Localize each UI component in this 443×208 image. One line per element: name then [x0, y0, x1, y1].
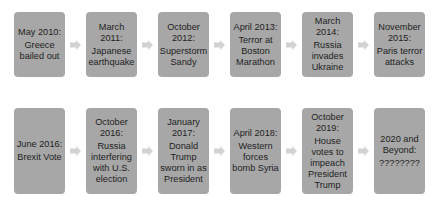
arrow-connector — [353, 40, 374, 50]
timeline-box-october-2012: October 2012: Superstorm Sandy — [158, 12, 209, 77]
box-event: Greece bailed out — [15, 40, 64, 62]
box-event: Brexit Vote — [17, 152, 61, 163]
arrow-connector — [65, 40, 86, 50]
box-date: March 2011: — [87, 22, 136, 44]
box-date: 2020 and Beyond: — [375, 134, 424, 156]
box-date: April 2018: — [234, 128, 278, 139]
box-event: Russia interfering with U.S. election — [87, 141, 136, 185]
box-date: January 2017: — [159, 117, 208, 139]
box-event: ???????? — [379, 158, 420, 169]
right-arrow-icon — [214, 40, 225, 50]
box-event: Paris terror attacks — [375, 46, 424, 68]
box-event: Russia invades Ukraine — [303, 40, 352, 73]
timeline-box-march-2011: March 2011: Japanese earthquake — [86, 12, 137, 77]
box-date: October 2012: — [159, 22, 208, 44]
right-arrow-icon — [142, 40, 153, 50]
box-event: Superstorm Sandy — [159, 46, 208, 68]
arrow-connector — [353, 146, 374, 156]
timeline-row-2: June 2016: Brexit Vote October 2016: Rus… — [14, 108, 425, 194]
box-date: November 2015: — [375, 22, 424, 44]
box-date: May 2010: — [18, 27, 61, 38]
right-arrow-icon — [358, 146, 369, 156]
arrow-connector — [137, 146, 158, 156]
box-event: Western forces bomb Syria — [231, 141, 280, 174]
box-date: June 2016: — [17, 139, 62, 150]
timeline-box-october-2019: October 2019: House votes to impeach Pre… — [302, 108, 353, 194]
arrow-connector — [281, 146, 302, 156]
arrow-connector — [209, 146, 230, 156]
timeline-box-april-2018: April 2018: Western forces bomb Syria — [230, 108, 281, 194]
arrow-connector — [65, 146, 86, 156]
timeline-box-may-2010: May 2010: Greece bailed out — [14, 12, 65, 77]
arrow-connector — [137, 40, 158, 50]
timeline-box-march-2014: March 2014: Russia invades Ukraine — [302, 12, 353, 77]
right-arrow-icon — [286, 40, 297, 50]
arrow-connector — [209, 40, 230, 50]
right-arrow-icon — [358, 40, 369, 50]
timeline-box-october-2016: October 2016: Russia interfering with U.… — [86, 108, 137, 194]
box-event: House votes to impeach President Trump — [303, 136, 352, 191]
timeline-box-april-2013: April 2013: Terror at Boston Marathon — [230, 12, 281, 77]
arrow-connector — [281, 40, 302, 50]
right-arrow-icon — [214, 146, 225, 156]
box-date: October 2019: — [303, 112, 352, 134]
right-arrow-icon — [286, 146, 297, 156]
timeline-row-1: May 2010: Greece bailed out March 2011: … — [14, 12, 425, 77]
right-arrow-icon — [70, 146, 81, 156]
timeline-box-january-2017: January 2017: Donald Trump sworn in as P… — [158, 108, 209, 194]
box-date: April 2013: — [234, 22, 278, 33]
box-date: October 2016: — [87, 117, 136, 139]
box-event: Donald Trump sworn in as President — [159, 141, 208, 185]
timeline-box-2020-and-beyond: 2020 and Beyond: ???????? — [374, 108, 425, 194]
box-event: Terror at Boston Marathon — [231, 35, 280, 68]
box-date: March 2014: — [303, 16, 352, 38]
timeline-box-june-2016: June 2016: Brexit Vote — [14, 108, 65, 194]
right-arrow-icon — [70, 40, 81, 50]
timeline-box-november-2015: November 2015: Paris terror attacks — [374, 12, 425, 77]
box-event: Japanese earthquake — [87, 46, 136, 68]
right-arrow-icon — [142, 146, 153, 156]
